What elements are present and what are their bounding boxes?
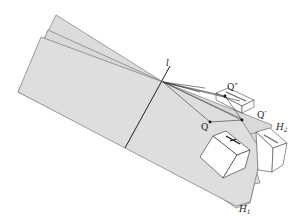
label-q-prime: Q′ — [257, 110, 266, 120]
diagram: l Q Q′ Q″ H2 H1 — [0, 0, 303, 224]
label-q: Q — [201, 122, 208, 132]
point-q-prime — [241, 119, 244, 122]
label-h1: H1 — [238, 204, 251, 215]
label-l: l — [166, 58, 169, 68]
label-h2: H2 — [275, 122, 288, 133]
point-q — [209, 121, 212, 124]
right-box — [256, 128, 287, 172]
label-q-double-prime: Q″ — [227, 82, 238, 92]
point-q-double-prime — [224, 95, 227, 98]
